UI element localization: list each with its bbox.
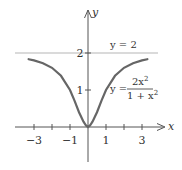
x-axis-label: x <box>168 120 175 133</box>
svg-text:y =: y = <box>109 83 127 94</box>
x-tick-label: −1 <box>62 134 78 147</box>
y-axis <box>85 10 92 162</box>
asymptote-label: y = 2 <box>109 39 137 50</box>
x-tick-label: 3 <box>139 134 146 147</box>
y-axis-label: y <box>91 6 99 19</box>
equation-denominator: 1 + x2 <box>127 89 158 101</box>
x-tick-label: 1 <box>103 134 110 147</box>
curve-equation-label: y = 2x2 1 + x2 <box>109 75 158 101</box>
x-tick-label: −3 <box>26 134 42 147</box>
equation-numerator: 2x2 <box>132 75 148 87</box>
y-tick-label: 2 <box>77 47 84 60</box>
function-graph: y x −3 −1 1 3 1 2 y = 2 y = 2x2 1 + x2 <box>0 0 182 170</box>
y-tick-label: 1 <box>77 84 84 97</box>
